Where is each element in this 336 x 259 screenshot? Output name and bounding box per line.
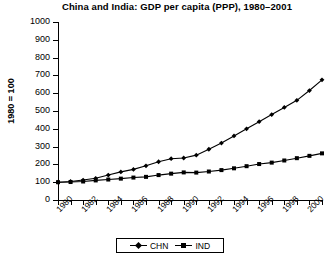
data-point-chn	[269, 112, 274, 117]
data-point-ind	[232, 166, 236, 170]
legend-item-ind: IND	[175, 241, 210, 251]
data-point-chn	[219, 141, 224, 146]
data-point-ind	[207, 170, 211, 174]
data-point-chn	[194, 153, 199, 158]
data-point-chn	[244, 126, 249, 131]
data-point-ind	[81, 179, 85, 183]
data-point-ind	[219, 168, 223, 172]
chart-container: China and India: GDP per capita (PPP), 1…	[0, 0, 336, 259]
data-point-ind	[307, 154, 311, 158]
data-point-chn	[131, 167, 136, 172]
data-point-ind	[106, 178, 110, 182]
data-point-ind	[169, 172, 173, 176]
data-point-ind	[182, 170, 186, 174]
data-point-ind	[56, 180, 60, 184]
data-point-ind	[69, 180, 73, 184]
data-point-ind	[119, 177, 123, 181]
data-point-ind	[194, 171, 198, 175]
legend-sample-chn	[130, 241, 147, 250]
data-point-chn	[257, 119, 262, 124]
data-point-ind	[295, 156, 299, 160]
data-point-chn	[232, 134, 237, 139]
data-point-chn	[118, 169, 123, 174]
data-point-chn	[106, 173, 111, 178]
square-marker-icon	[181, 243, 186, 248]
data-point-ind	[94, 178, 98, 182]
legend-sample-ind	[175, 241, 192, 250]
data-point-chn	[169, 156, 174, 161]
diamond-marker-icon	[135, 242, 142, 249]
data-point-ind	[257, 162, 261, 166]
data-point-ind	[157, 173, 161, 177]
data-point-ind	[320, 151, 324, 155]
data-point-chn	[181, 156, 186, 161]
data-point-chn	[282, 105, 287, 110]
legend-item-chn: CHN	[130, 241, 168, 251]
chart-legend: CHN IND	[116, 238, 224, 253]
data-point-ind	[131, 176, 135, 180]
series-line-chn	[58, 80, 322, 182]
data-point-ind	[270, 161, 274, 165]
legend-label-chn: CHN	[150, 241, 168, 251]
series-plot-area	[0, 0, 336, 259]
legend-label-ind: IND	[195, 241, 210, 251]
data-point-chn	[156, 159, 161, 164]
data-point-ind	[245, 164, 249, 168]
data-point-ind	[144, 175, 148, 179]
data-point-chn	[206, 147, 211, 152]
data-point-chn	[144, 163, 149, 168]
data-point-ind	[282, 158, 286, 162]
